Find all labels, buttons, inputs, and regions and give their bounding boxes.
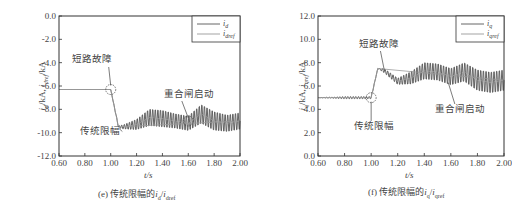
y-tick-label: -12.0 bbox=[37, 151, 56, 161]
annotation-text: 传统限幅 bbox=[80, 125, 120, 136]
y-tick-label: 12.0 bbox=[299, 11, 315, 21]
annotation-text: 重合闸启动 bbox=[164, 88, 214, 99]
x-axis-label-right: t/s bbox=[405, 170, 414, 180]
chart-panel-e: 0.600.801.001.201.401.601.802.000.0-2.0-… bbox=[37, 11, 248, 168]
figure-canvas: 0.600.801.001.201.401.601.802.000.0-2.0-… bbox=[0, 0, 512, 216]
x-tick-label: 1.20 bbox=[129, 158, 145, 168]
legend: ididref bbox=[192, 16, 240, 42]
x-tick-label: 1.20 bbox=[390, 158, 406, 168]
annotation: 短路故障 bbox=[72, 53, 116, 95]
annotation: 短路故障 bbox=[359, 38, 399, 71]
y-axis-label-left: id/kA, idref/kA bbox=[37, 31, 49, 141]
caption-right-text: (f) 传统限幅的 bbox=[368, 187, 424, 197]
x-tick-label: 0.80 bbox=[77, 158, 93, 168]
annotation: 传统限幅 bbox=[80, 125, 122, 136]
caption-left-text: (e) 传统限幅的 bbox=[98, 189, 155, 199]
annotation-text: 短路故障 bbox=[72, 53, 112, 64]
x-tick-label: 1.00 bbox=[363, 158, 379, 168]
x-tick-label: 1.60 bbox=[443, 158, 459, 168]
series-i_q bbox=[318, 63, 504, 99]
annotation-text: 短路故障 bbox=[359, 38, 399, 49]
x-tick-label: 2.00 bbox=[232, 158, 248, 168]
legend: iqiqref bbox=[456, 16, 504, 42]
y-tick-label: 0.0 bbox=[45, 11, 57, 21]
x-tick-label: 0.80 bbox=[337, 158, 353, 168]
caption-right: (f) 传统限幅的iq/iqref bbox=[368, 185, 444, 199]
x-tick-label: 1.40 bbox=[155, 158, 171, 168]
annotation-text: 传统限幅 bbox=[354, 120, 394, 131]
caption-left: (e) 传统限幅的id/idref bbox=[98, 187, 175, 201]
x-tick-label: 1.80 bbox=[470, 158, 486, 168]
x-tick-label: 1.00 bbox=[103, 158, 119, 168]
x-axis-label-left: t/s bbox=[144, 170, 153, 180]
y-tick-label: 0.0 bbox=[304, 151, 316, 161]
x-tick-label: 1.60 bbox=[180, 158, 196, 168]
x-tick-label: 1.40 bbox=[416, 158, 432, 168]
chart-panel-f: 0.600.801.001.201.401.601.802.0012.010.0… bbox=[299, 11, 512, 168]
annotation-text: 重合闸启动 bbox=[435, 103, 485, 114]
y-axis-label-right: iq/kA, iqref/kA bbox=[297, 31, 309, 141]
x-tick-label: 2.00 bbox=[496, 158, 512, 168]
x-tick-label: 1.80 bbox=[206, 158, 222, 168]
